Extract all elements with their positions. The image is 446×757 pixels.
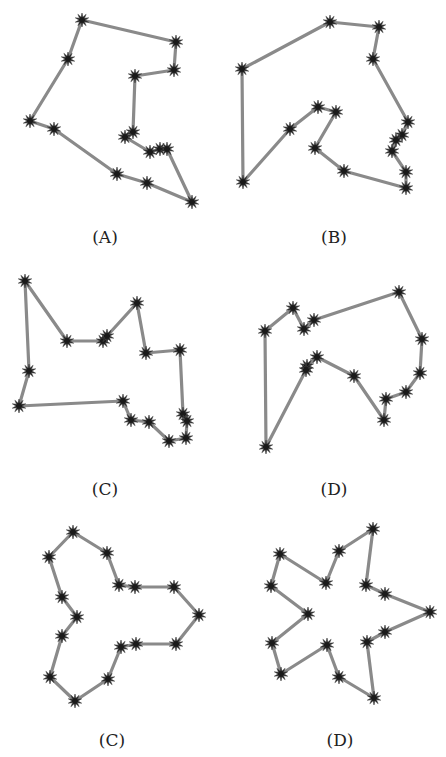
- vertex-star-icon: [320, 638, 333, 652]
- vertex-star-icon: [100, 546, 113, 560]
- polygon-edges: [242, 22, 408, 188]
- vertex-star-icon: [22, 364, 35, 378]
- vertex-star-icon: [367, 691, 380, 705]
- polygon-edges: [19, 281, 187, 441]
- vertex-star-icon: [319, 576, 332, 590]
- polygon-figure: [0, 0, 446, 757]
- polygon-edges: [271, 529, 430, 698]
- vertex-star-icon: [235, 62, 248, 76]
- polygon-a: [23, 13, 198, 209]
- panel-label-c: (C): [92, 479, 118, 499]
- vertex-star-icon: [378, 587, 391, 601]
- panel-label-d2: (D): [327, 730, 354, 750]
- panel-label-a: (A): [92, 227, 118, 247]
- polygon-c: [12, 274, 193, 448]
- polygon-d: [258, 285, 428, 454]
- panel-label-c2: (C): [99, 730, 125, 750]
- vertex-star-icon: [274, 667, 287, 681]
- polygon-edges: [49, 532, 199, 701]
- polygon-edges: [30, 20, 192, 202]
- vertex-star-icon: [185, 195, 198, 209]
- vertex-star-icon: [401, 115, 414, 129]
- polygon-d2: [264, 522, 436, 705]
- panel-label-d: (D): [321, 479, 348, 499]
- panel-label-b: (B): [321, 227, 347, 247]
- vertex-star-icon: [359, 578, 372, 592]
- vertex-star-icon: [332, 670, 345, 684]
- polygon-b: [235, 15, 414, 195]
- vertex-star-icon: [366, 52, 379, 66]
- polygon-edges: [265, 292, 422, 447]
- vertex-star-icon: [378, 625, 391, 639]
- vertex-star-icon: [360, 635, 373, 649]
- polygon-c2: [42, 525, 205, 708]
- vertex-star-icon: [273, 547, 286, 561]
- vertex-star-icon: [415, 332, 428, 346]
- vertex-star-icon: [259, 440, 272, 454]
- vertex-star-icon: [423, 605, 436, 619]
